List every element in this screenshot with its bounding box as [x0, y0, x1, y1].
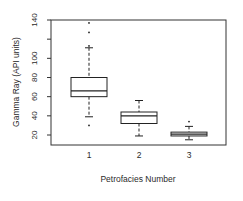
x-axis-title: Petrofacies Number	[100, 174, 175, 184]
x-axis: 123	[87, 150, 192, 160]
iqr-box	[71, 78, 107, 97]
boxes	[71, 22, 207, 140]
iqr-box	[121, 112, 157, 124]
outlier-point	[88, 32, 90, 34]
y-axis: 20406080100140	[30, 13, 51, 140]
box-group-3	[171, 121, 207, 140]
outlier-point	[88, 45, 90, 47]
outlier-point	[88, 22, 90, 24]
y-tick-label: 80	[30, 73, 39, 82]
outlier-point	[88, 125, 90, 127]
y-tick-label: 20	[30, 130, 39, 139]
outlier-point	[188, 121, 190, 123]
y-tick-label: 100	[30, 51, 39, 65]
x-tick-label: 2	[137, 150, 142, 160]
box-group-2	[121, 101, 157, 136]
box-plot-chart: 20406080100140 123 Gamma Ray (API units)…	[0, 0, 243, 201]
y-tick-label: 140	[30, 13, 39, 27]
y-tick-label: 40	[30, 111, 39, 120]
x-tick-label: 3	[187, 150, 192, 160]
y-axis-title: Gamma Ray (API units)	[11, 37, 21, 127]
box-group-1	[71, 22, 107, 126]
y-tick-label: 60	[30, 92, 39, 101]
x-tick-label: 1	[87, 150, 92, 160]
chart-canvas: 20406080100140 123 Gamma Ray (API units)…	[0, 0, 243, 201]
